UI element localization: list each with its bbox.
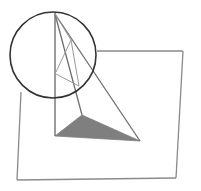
shaded-base-triangle — [55, 115, 140, 141]
plane-left-edge — [17, 92, 21, 180]
plane-right-edge — [176, 51, 183, 178]
plane-bottom-edge — [17, 178, 176, 180]
inner-line-1 — [55, 14, 71, 40]
geometry-diagram — [0, 0, 201, 191]
inner-line-3 — [56, 74, 79, 86]
